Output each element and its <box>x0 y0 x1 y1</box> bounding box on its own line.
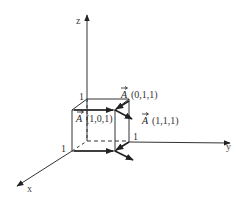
axes <box>17 15 230 186</box>
y-tick-one: 1 <box>133 131 138 142</box>
vector-a-011-bottom <box>116 142 129 150</box>
vector-coords: (1,1,1) <box>152 115 179 127</box>
x-axis-label: x <box>27 183 32 194</box>
vector-coords: (1,0,1) <box>86 113 113 125</box>
vector-a-011-top <box>116 101 129 109</box>
vector-symbol: A <box>75 113 83 124</box>
z-axis-label: z <box>76 15 81 26</box>
vector-symbol: A <box>141 115 149 126</box>
vectors-bottom <box>74 142 133 160</box>
label-a-111: A (1,1,1) <box>141 113 179 128</box>
vector-a-111-bottom <box>115 151 133 160</box>
y-axis-label: y <box>226 141 231 152</box>
vector-coords: (0,1,1) <box>131 89 158 101</box>
z-tick-one: 1 <box>79 91 84 102</box>
vector-diagram: z y x 1 1 1 A (0,1,1) A (1,0,1) A (1,1,1… <box>0 0 239 203</box>
vector-symbol: A <box>120 89 128 100</box>
x-axis <box>17 151 72 186</box>
y-axis <box>129 142 230 143</box>
label-a-011: A (0,1,1) <box>120 87 158 102</box>
x-tick-one: 1 <box>61 143 66 154</box>
label-a-101: A (1,0,1) <box>75 111 113 126</box>
